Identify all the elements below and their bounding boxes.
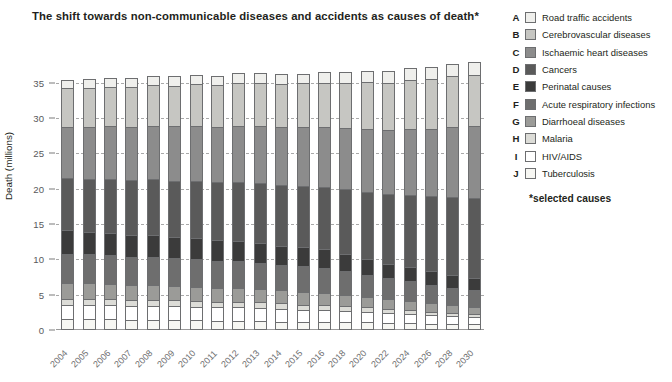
bar-segment-J[interactable] <box>254 321 267 330</box>
bar-2030[interactable] <box>468 62 481 330</box>
bar-segment-B[interactable] <box>125 87 138 127</box>
bar-segment-G[interactable] <box>232 288 245 301</box>
bar-segment-A[interactable] <box>382 71 395 82</box>
bar-segment-D[interactable] <box>446 197 459 275</box>
bar-segment-G[interactable] <box>125 285 138 300</box>
bar-segment-F[interactable] <box>211 261 224 288</box>
bar-segment-J[interactable] <box>318 322 331 330</box>
bar-segment-J[interactable] <box>61 319 74 330</box>
bar-segment-I[interactable] <box>125 306 138 320</box>
bar-segment-I[interactable] <box>275 309 288 322</box>
bar-segment-J[interactable] <box>468 324 481 330</box>
bar-2014[interactable] <box>275 74 288 330</box>
bar-segment-B[interactable] <box>446 76 459 127</box>
legend-item-G[interactable]: GDiarrhoeal diseases <box>509 113 672 130</box>
bar-segment-G[interactable] <box>446 305 459 313</box>
bar-2013[interactable] <box>254 73 267 330</box>
bar-segment-F[interactable] <box>318 268 331 293</box>
bar-segment-I[interactable] <box>61 305 74 319</box>
bar-segment-E[interactable] <box>254 243 267 263</box>
bar-segment-C[interactable] <box>339 128 352 189</box>
bar-segment-I[interactable] <box>361 312 374 323</box>
bar-segment-G[interactable] <box>404 301 417 310</box>
bar-segment-A[interactable] <box>297 74 310 84</box>
bar-segment-I[interactable] <box>232 307 245 320</box>
bar-segment-G[interactable] <box>275 290 288 303</box>
bar-segment-B[interactable] <box>275 84 288 127</box>
bar-segment-B[interactable] <box>404 80 417 129</box>
bar-segment-B[interactable] <box>361 82 374 129</box>
bar-segment-F[interactable] <box>104 255 117 284</box>
bar-segment-F[interactable] <box>339 271 352 294</box>
bar-segment-A[interactable] <box>275 74 288 84</box>
bar-2020[interactable] <box>361 71 374 330</box>
bar-segment-B[interactable] <box>168 86 181 127</box>
bar-2028[interactable] <box>446 64 459 330</box>
bar-segment-J[interactable] <box>147 320 160 330</box>
legend-item-D[interactable]: DCancers <box>509 61 672 78</box>
bar-segment-D[interactable] <box>104 179 117 233</box>
bar-segment-C[interactable] <box>361 129 374 192</box>
bar-segment-B[interactable] <box>297 83 310 127</box>
bar-segment-I[interactable] <box>190 307 203 320</box>
bar-segment-J[interactable] <box>297 322 310 330</box>
bar-segment-A[interactable] <box>190 75 203 84</box>
bar-segment-J[interactable] <box>339 322 352 330</box>
bar-segment-C[interactable] <box>404 129 417 195</box>
bar-segment-G[interactable] <box>318 293 331 305</box>
legend-item-E[interactable]: EPerinatal causes <box>509 78 672 95</box>
bar-segment-F[interactable] <box>125 257 138 285</box>
bar-segment-G[interactable] <box>83 283 96 299</box>
bar-segment-F[interactable] <box>425 285 438 303</box>
bar-segment-D[interactable] <box>382 194 395 263</box>
bar-segment-F[interactable] <box>382 278 395 298</box>
bar-segment-C[interactable] <box>104 126 117 178</box>
bar-segment-B[interactable] <box>254 83 267 126</box>
bar-segment-I[interactable] <box>404 314 417 323</box>
bar-2011[interactable] <box>211 76 224 330</box>
bar-segment-J[interactable] <box>190 320 203 330</box>
bar-segment-A[interactable] <box>168 76 181 85</box>
bar-segment-E[interactable] <box>446 275 459 288</box>
bar-segment-D[interactable] <box>211 182 224 240</box>
bar-segment-A[interactable] <box>61 80 74 88</box>
bar-segment-D[interactable] <box>232 182 245 241</box>
bar-segment-F[interactable] <box>61 254 74 284</box>
bar-segment-I[interactable] <box>446 316 459 324</box>
bar-2018[interactable] <box>339 72 352 330</box>
bar-2004[interactable] <box>61 80 74 330</box>
bar-segment-A[interactable] <box>232 73 245 83</box>
bar-segment-C[interactable] <box>275 127 288 185</box>
legend-item-I[interactable]: IHIV/AIDS <box>509 147 672 164</box>
bar-segment-J[interactable] <box>232 321 245 330</box>
bar-segment-J[interactable] <box>104 319 117 330</box>
bar-segment-F[interactable] <box>254 263 267 289</box>
bar-segment-D[interactable] <box>168 181 181 237</box>
bar-segment-B[interactable] <box>382 83 395 130</box>
bar-segment-C[interactable] <box>425 129 438 197</box>
bar-segment-E[interactable] <box>232 241 245 261</box>
bar-segment-D[interactable] <box>254 183 267 243</box>
bar-segment-G[interactable] <box>339 295 352 306</box>
bar-segment-G[interactable] <box>297 292 310 305</box>
bar-segment-J[interactable] <box>404 323 417 330</box>
bar-segment-E[interactable] <box>468 278 481 290</box>
bar-segment-A[interactable] <box>425 67 438 79</box>
bar-segment-D[interactable] <box>404 195 417 267</box>
bar-segment-D[interactable] <box>190 181 203 238</box>
bar-segment-E[interactable] <box>211 240 224 260</box>
bar-segment-J[interactable] <box>361 322 374 330</box>
bar-segment-I[interactable] <box>339 311 352 322</box>
bar-2015[interactable] <box>297 74 310 331</box>
bar-segment-E[interactable] <box>125 235 138 257</box>
bar-segment-G[interactable] <box>468 307 481 314</box>
bar-segment-D[interactable] <box>425 196 438 271</box>
bar-segment-C[interactable] <box>190 126 203 181</box>
bar-segment-G[interactable] <box>168 286 181 300</box>
bar-segment-A[interactable] <box>318 72 331 83</box>
bar-segment-J[interactable] <box>211 321 224 330</box>
bar-segment-A[interactable] <box>254 73 267 83</box>
bar-segment-D[interactable] <box>83 179 96 232</box>
bar-segment-I[interactable] <box>254 308 267 321</box>
bar-segment-J[interactable] <box>425 324 438 330</box>
